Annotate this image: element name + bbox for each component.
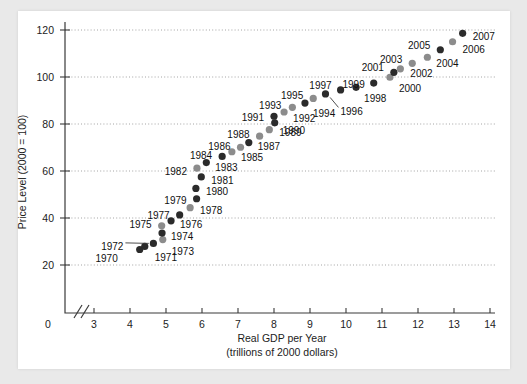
- x-tick-label-8: 8: [271, 318, 277, 330]
- axis-break-slash-1: [74, 305, 82, 318]
- x-tick-label-11: 11: [377, 318, 388, 330]
- point-label-1975: 1975: [129, 219, 152, 230]
- data-point-1977[interactable]: [176, 211, 183, 218]
- point-label-1972: 1972: [101, 241, 124, 252]
- data-point-1992[interactable]: [280, 108, 287, 115]
- point-label-2005: 2005: [408, 40, 431, 51]
- x-tick-label-4: 4: [127, 318, 133, 330]
- x-tick-label-9: 9: [307, 318, 313, 330]
- data-point-2005[interactable]: [437, 46, 444, 53]
- data-point-1975[interactable]: [158, 222, 165, 229]
- point-label-1979: 1979: [164, 195, 187, 206]
- point-label-1994: 1994: [313, 108, 336, 119]
- point-label-1997: 1997: [309, 80, 332, 91]
- point-label-2006: 2006: [463, 44, 486, 55]
- data-point-1982[interactable]: [193, 165, 200, 172]
- data-point-1995[interactable]: [310, 95, 317, 102]
- point-label-2000: 2000: [399, 83, 422, 94]
- point-label-2002: 2002: [410, 68, 433, 79]
- point-label-1995: 1995: [281, 90, 304, 101]
- data-point-1993[interactable]: [289, 104, 296, 111]
- axes: [65, 22, 495, 318]
- axis-break-slash-2: [81, 305, 89, 318]
- y-tick-label-80: 80: [42, 118, 54, 130]
- y-tick-label-60: 60: [42, 165, 54, 177]
- data-point-1990[interactable]: [271, 119, 278, 126]
- data-point-1981[interactable]: [198, 173, 205, 180]
- point-label-1974: 1974: [171, 231, 194, 242]
- x-origin-label: 0: [45, 318, 51, 330]
- point-label-1970: 1970: [95, 253, 118, 264]
- scatter-chart: 34567891011121314020406080100120Real GDP…: [0, 0, 527, 384]
- y-tick-label-20: 20: [42, 259, 54, 271]
- data-point-1999[interactable]: [370, 80, 377, 87]
- x-tick-label-10: 10: [340, 318, 352, 330]
- x-tick-label-12: 12: [412, 318, 424, 330]
- data-point-2002[interactable]: [397, 65, 404, 72]
- data-point-1987[interactable]: [245, 139, 252, 146]
- x-tick-label-3: 3: [91, 318, 97, 330]
- point-label-1998: 1998: [364, 93, 387, 104]
- point-label-1976: 1976: [180, 219, 203, 230]
- data-point-1991[interactable]: [270, 113, 277, 120]
- data-point-1972[interactable]: [150, 240, 157, 247]
- data-point-2006[interactable]: [449, 38, 456, 45]
- data-point-1988[interactable]: [256, 133, 263, 140]
- data-point-1978[interactable]: [187, 204, 194, 211]
- chart-canvas: 34567891011121314020406080100120Real GDP…: [0, 0, 527, 384]
- y-tick-label-120: 120: [36, 24, 54, 36]
- leader-line-1972: [125, 243, 148, 244]
- point-label-1978: 1978: [200, 205, 223, 216]
- point-label-1988: 1988: [227, 129, 250, 140]
- y-axis-title: Price Level (2000 = 100): [16, 115, 28, 230]
- x-axis-ticks: 345678910111213140: [45, 308, 496, 330]
- x-tick-label-7: 7: [235, 318, 241, 330]
- point-label-1991: 1991: [242, 112, 265, 123]
- y-tick-label-100: 100: [36, 71, 54, 83]
- data-point-1973[interactable]: [159, 236, 166, 243]
- data-point-2003[interactable]: [409, 60, 416, 67]
- data-point-1984[interactable]: [219, 153, 226, 160]
- point-label-2004: 2004: [436, 58, 459, 69]
- x-tick-label-6: 6: [199, 318, 205, 330]
- data-point-2001[interactable]: [390, 69, 397, 76]
- data-point-1986[interactable]: [237, 144, 244, 151]
- point-label-1983: 1983: [215, 162, 238, 173]
- data-point-1996[interactable]: [322, 90, 329, 97]
- point-label-1973: 1973: [172, 246, 195, 257]
- data-point-1974[interactable]: [158, 229, 165, 236]
- point-label-2003: 2003: [380, 54, 403, 65]
- point-label-1999: 1999: [342, 79, 365, 90]
- data-point-2004[interactable]: [424, 54, 431, 61]
- data-point-1979[interactable]: [193, 195, 200, 202]
- point-label-1981: 1981: [211, 175, 234, 186]
- y-tick-label-40: 40: [42, 212, 54, 224]
- data-point-1971[interactable]: [141, 243, 148, 250]
- leader-line-1996: [330, 97, 338, 107]
- x-tick-label-5: 5: [163, 318, 169, 330]
- data-point-1989[interactable]: [266, 126, 273, 133]
- x-axis-subtitle: (trillions of 2000 dollars): [226, 346, 337, 358]
- data-points: 1970197119721973197419751976197719781979…: [95, 30, 495, 264]
- data-point-1980[interactable]: [192, 185, 199, 192]
- point-label-1993: 1993: [259, 100, 282, 111]
- point-label-1986: 1986: [208, 141, 231, 152]
- x-tick-label-13: 13: [448, 318, 460, 330]
- point-label-1980: 1980: [206, 186, 229, 197]
- point-label-1987: 1987: [258, 141, 281, 152]
- point-label-1985: 1985: [241, 152, 264, 163]
- axis-lines: [65, 22, 495, 313]
- data-point-2007[interactable]: [459, 30, 466, 37]
- point-label-2007: 2007: [473, 31, 496, 42]
- point-label-1977: 1977: [147, 210, 170, 221]
- point-label-1996: 1996: [340, 106, 363, 117]
- x-axis-title: Real GDP per Year: [237, 332, 327, 344]
- point-label-1982: 1982: [165, 166, 188, 177]
- x-tick-label-14: 14: [484, 318, 496, 330]
- point-label-1990: 1990: [283, 125, 306, 136]
